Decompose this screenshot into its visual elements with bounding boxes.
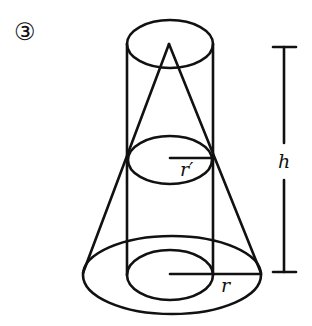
figure-number: ③: [14, 20, 36, 44]
small-radius-label: r′: [180, 160, 193, 179]
cone-cylinder-diagram: [0, 0, 312, 326]
height-label: h: [278, 152, 290, 171]
section-ellipse: [128, 136, 212, 184]
large-radius-label: r: [221, 276, 230, 295]
